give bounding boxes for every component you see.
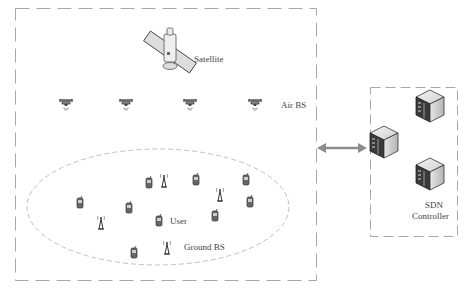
user-phone-icon [77,196,83,208]
ground-bs-label: Ground BS [184,242,225,252]
ground-bs-tower-icon [161,174,168,187]
user-phone-icon [247,195,253,207]
air-bs-drone-icon [120,99,132,110]
bidirectional-arrow-icon [317,143,367,153]
user-phone-icon [156,214,162,226]
user-phone-icon [212,209,218,221]
satellite-icon [144,28,197,73]
satellite-label: Satellite [194,54,224,64]
user-label: User [170,216,187,226]
sdn-label: SDN [425,200,443,210]
sdn-server-icon [416,158,444,190]
ground-bs-tower-icon [164,241,171,254]
user-phone-icon [126,201,132,213]
ground-bs-tower-icon [98,216,105,229]
user-phone-icon [193,173,199,185]
air-bs-drone-icon [184,99,196,110]
user-phone-icon [146,176,152,188]
controller-label: Controller [412,211,449,221]
air-bs-drone-icon [249,99,261,110]
sdn-server-icon [370,126,398,158]
air-bs-drone-icon [60,99,72,110]
ground-bs-tower-icon [217,188,224,201]
user-phone-icon [131,246,137,258]
sdn-server-icon [416,90,444,122]
user-phone-icon [243,173,249,185]
air-bs-label: Air BS [281,100,306,110]
network-diagram [0,0,470,291]
